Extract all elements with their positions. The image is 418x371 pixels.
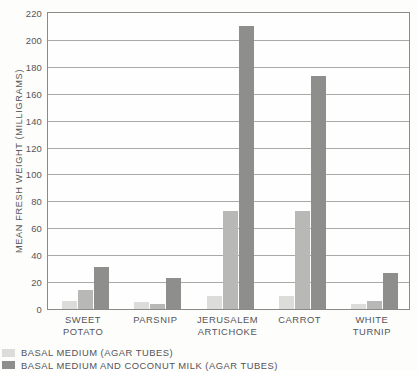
bar-chart: MEAN FRESH WEIGHT (MILLIGRAMS) 020406080… [0, 0, 418, 371]
bar [150, 304, 165, 309]
legend-swatch [2, 349, 15, 357]
bar [351, 304, 366, 309]
x-axis-label: WHITE TURNIP [336, 314, 408, 337]
bar [78, 290, 93, 309]
bar-groups [48, 13, 409, 309]
legend-label: BASAL MEDIUM AND COCONUT MILK (AGAR TUBE… [21, 360, 278, 371]
y-axis-tick-label: 200 [6, 34, 42, 45]
bar [311, 76, 326, 309]
bar [383, 273, 398, 309]
bar-group [279, 13, 327, 309]
bar [166, 278, 181, 309]
y-axis-tick-label: 140 [6, 115, 42, 126]
y-axis-tick-label: 220 [6, 8, 42, 19]
y-axis-tick-label: 40 [6, 250, 42, 261]
x-axis-label: CARROT [264, 314, 336, 326]
bar [279, 296, 294, 309]
y-axis-tick-label: 100 [6, 169, 42, 180]
x-axis-label: PARSNIP [119, 314, 191, 326]
legend-label: BASAL MEDIUM (AGAR TUBES) [21, 347, 173, 358]
bar [295, 211, 310, 309]
y-axis-tick-label: 60 [6, 223, 42, 234]
bar [62, 301, 77, 309]
bar [223, 211, 238, 309]
y-axis-tick-label: 120 [6, 142, 42, 153]
y-axis-tick-label: 180 [6, 61, 42, 72]
bar [94, 267, 109, 309]
bar-group [207, 13, 255, 309]
bar [367, 301, 382, 309]
bar-group [62, 13, 110, 309]
legend-item: BASAL MEDIUM AND COCONUT MILK (AGAR TUBE… [2, 360, 278, 371]
y-axis-tick-label: 20 [6, 277, 42, 288]
bar [207, 296, 222, 309]
chart-legend: BASAL MEDIUM (AGAR TUBES)BASAL MEDIUM AN… [2, 347, 278, 371]
x-axis-label: JERUSALEM ARTICHOKE [191, 314, 263, 337]
bar [239, 26, 254, 309]
bar [134, 302, 149, 309]
legend-swatch [2, 361, 15, 369]
y-axis-tick-label: 0 [6, 304, 42, 315]
y-axis-tick-label: 160 [6, 88, 42, 99]
legend-item: BASAL MEDIUM (AGAR TUBES) [2, 347, 278, 359]
bar-group [134, 13, 182, 309]
bar-group [351, 13, 399, 309]
plot-area: 020406080100120140160180200220 [47, 12, 410, 310]
x-axis-label: SWEET POTATO [47, 314, 119, 337]
y-axis-tick-label: 80 [6, 196, 42, 207]
x-axis-labels: SWEET POTATOPARSNIPJERUSALEM ARTICHOKECA… [47, 314, 410, 340]
